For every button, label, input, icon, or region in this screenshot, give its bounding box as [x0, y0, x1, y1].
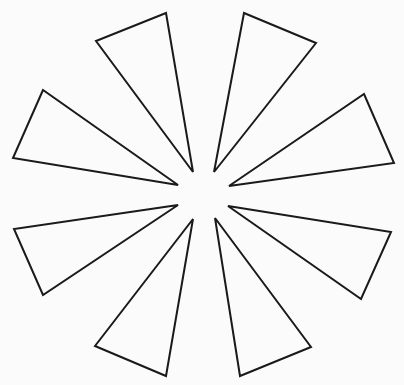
- triangle-right-upper: [229, 94, 394, 186]
- triangle-bottom-left: [95, 219, 193, 376]
- triangle-left-lower: [14, 205, 178, 295]
- triangle-top-left: [96, 13, 193, 172]
- triangle-bottom-right: [215, 218, 311, 376]
- triangle-left-upper: [13, 90, 178, 185]
- radial-triangles-diagram: [0, 0, 404, 385]
- triangle-top-right: [214, 13, 316, 172]
- triangle-right-lower: [228, 206, 391, 299]
- diagram-canvas: [0, 0, 404, 385]
